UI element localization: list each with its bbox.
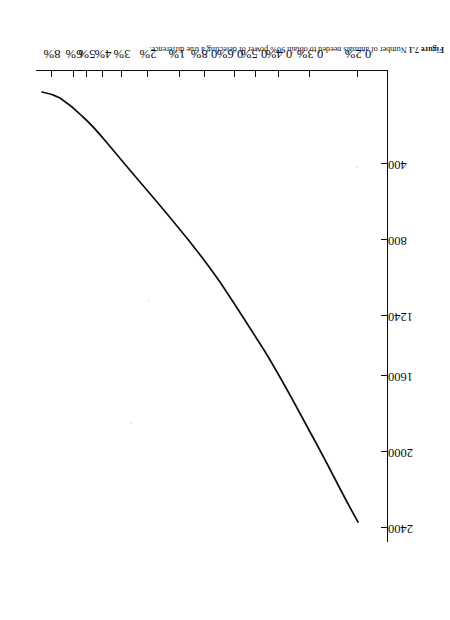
data-curve	[30, 70, 420, 564]
scan-speck	[356, 166, 358, 168]
data-curve-path	[42, 92, 358, 522]
scan-speck	[131, 423, 133, 425]
scanned-figure-page: 0.2% 0.3% 0.4% 0.5% 0.6% 0.8% 1% 2% 3% 4…	[0, 0, 450, 620]
figure-caption-text: Number of animals needed to obtain 90% p…	[149, 45, 406, 54]
scan-speck	[148, 300, 150, 302]
figure-caption: Figure 7.1 Number of animals needed to o…	[2, 44, 444, 54]
chart-plot-area: 0.2% 0.3% 0.4% 0.5% 0.6% 0.8% 1% 2% 3% 4…	[30, 70, 420, 564]
figure-caption-label: Figure 7.1	[409, 45, 444, 54]
